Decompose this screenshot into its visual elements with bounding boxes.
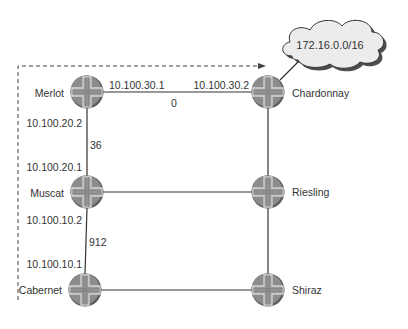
link-muscat-cabernet [85, 208, 87, 274]
router-icon [71, 176, 104, 209]
router-muscat [71, 176, 104, 209]
router-cabernet [69, 274, 102, 307]
router-icon [252, 274, 285, 307]
router-chardonnay [252, 76, 285, 109]
router-name-riesling: Riesling [292, 186, 330, 198]
metric-merlot-muscat: 36 [90, 139, 102, 151]
router-name-chardonnay: Chardonnay [292, 87, 350, 99]
router-icon [69, 274, 102, 307]
cloud-network: 172.16.0.0/16 [283, 20, 387, 71]
link-chardonnay-cloud [280, 60, 300, 80]
ip-merlot-chardonnay-side-a: 10.100.30.1 [109, 79, 165, 91]
router-name-muscat: Muscat [30, 187, 64, 199]
ip-merlot-chardonnay-side-b: 10.100.30.2 [194, 79, 250, 91]
router-name-merlot: Merlot [35, 87, 64, 99]
cloud-label: 172.16.0.0/16 [296, 39, 363, 51]
router-icon [252, 76, 285, 109]
router-icon [252, 176, 285, 209]
metric-merlot-chardonnay: 0 [171, 97, 177, 109]
metric-muscat-cabernet: 912 [89, 236, 107, 248]
network-diagram: 172.16.0.0/16 Merlot Chardonnay Muscat R… [0, 0, 408, 329]
ip-merlot-muscat-side-a: 10.100.20.2 [27, 117, 83, 129]
router-name-shiraz: Shiraz [292, 284, 322, 296]
router-icon [71, 76, 104, 109]
router-riesling [252, 176, 285, 209]
router-name-cabernet: Cabernet [19, 284, 62, 296]
ip-merlot-muscat-side-b: 10.100.20.1 [27, 161, 83, 173]
router-shiraz [252, 274, 285, 307]
ip-muscat-cabernet-side-b: 10.100.10.1 [27, 258, 83, 270]
ip-muscat-cabernet-side-a: 10.100.10.2 [27, 214, 83, 226]
router-merlot [71, 76, 104, 109]
